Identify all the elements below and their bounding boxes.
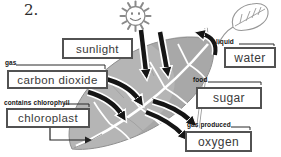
carbon-dioxide-label: carbon dioxide — [17, 74, 97, 86]
photosynthesis-diagram: 2. sunlight gas carbon dioxide contains … — [0, 0, 281, 157]
carbon-dioxide-box: carbon dioxide — [7, 70, 108, 89]
contains-chlorophyll-tag: contains chlorophyll — [4, 99, 70, 106]
water-box: water — [224, 47, 276, 68]
sugar-label: sugar — [213, 91, 245, 105]
gas-tag: gas — [5, 59, 17, 66]
oxygen-box: oxygen — [185, 131, 252, 152]
water-label: water — [234, 51, 265, 65]
oxygen-label: oxygen — [198, 135, 239, 149]
figure-number: 2. — [24, 1, 38, 19]
chloroplast-label: chloroplast — [18, 112, 78, 124]
sunlight-box: sunlight — [62, 38, 133, 59]
food-tag: food — [193, 76, 207, 83]
sunlight-label: sunlight — [76, 43, 119, 55]
sugar-box: sugar — [196, 87, 262, 109]
sun-icon — [121, 2, 151, 32]
gas-produced-tag: gas produced — [187, 121, 231, 128]
chloroplast-box: chloroplast — [6, 108, 90, 128]
liquid-tag: liquid — [216, 38, 234, 45]
